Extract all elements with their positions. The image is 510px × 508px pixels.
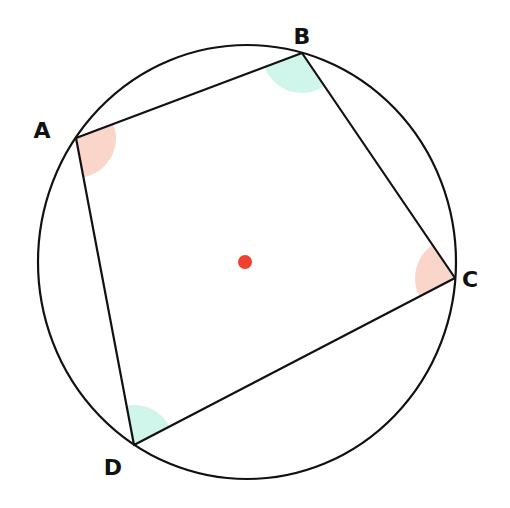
circle-center-point bbox=[238, 255, 252, 269]
vertex-label-b: B bbox=[294, 24, 311, 49]
diagram-canvas: A B C D bbox=[0, 0, 510, 508]
diagram-svg: A B C D bbox=[0, 0, 510, 508]
vertex-label-a: A bbox=[33, 118, 50, 143]
vertex-label-c: C bbox=[462, 267, 478, 292]
vertex-label-d: D bbox=[104, 455, 122, 480]
